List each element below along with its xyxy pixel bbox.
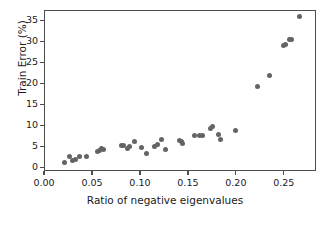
- x-tick-mark: [235, 171, 236, 175]
- x-tick-label: 0.25: [273, 178, 294, 188]
- data-point: [297, 14, 302, 19]
- x-tick-label: 0.10: [129, 178, 150, 188]
- data-point: [127, 144, 132, 149]
- x-tick-label: 0.00: [33, 178, 54, 188]
- data-point: [233, 128, 238, 133]
- data-point: [289, 37, 294, 42]
- x-tick-mark: [91, 171, 92, 175]
- data-point: [200, 133, 205, 138]
- x-tick-label: 0.20: [225, 178, 246, 188]
- data-point: [192, 133, 197, 138]
- x-tick-label: 0.15: [177, 178, 198, 188]
- data-point: [101, 147, 106, 152]
- y-tick-mark: [40, 146, 44, 147]
- scatter-plot-figure: 05101520253035 0.000.050.100.150.200.25 …: [0, 0, 330, 225]
- data-point: [77, 154, 82, 159]
- data-point: [210, 124, 215, 129]
- x-tick-label: 0.05: [81, 178, 102, 188]
- data-point: [283, 42, 288, 47]
- x-tick-mark: [283, 171, 284, 175]
- x-axis-label: Ratio of negative eigenvalues: [0, 194, 330, 206]
- y-tick-mark: [40, 125, 44, 126]
- data-point: [255, 84, 260, 89]
- plot-area: [44, 10, 316, 171]
- data-point: [84, 154, 89, 159]
- x-tick-mark: [187, 171, 188, 175]
- y-tick-mark: [40, 41, 44, 42]
- data-point: [159, 137, 164, 142]
- y-tick-mark: [40, 104, 44, 105]
- data-point: [144, 151, 149, 156]
- y-tick-label: 0: [32, 162, 38, 172]
- data-point: [139, 145, 144, 150]
- x-tick-mark: [139, 171, 140, 175]
- data-point: [62, 160, 67, 165]
- data-points-layer: [45, 11, 315, 170]
- data-point: [155, 142, 160, 147]
- y-tick-mark: [40, 167, 44, 168]
- y-tick-mark: [40, 20, 44, 21]
- y-tick-mark: [40, 62, 44, 63]
- data-point: [132, 139, 137, 144]
- data-point: [218, 137, 223, 142]
- x-tick-mark: [43, 171, 44, 175]
- y-tick-label: 5: [32, 141, 38, 151]
- y-axis-label: Train Error (%): [16, 0, 28, 128]
- y-tick-mark: [40, 83, 44, 84]
- data-point: [267, 73, 272, 78]
- data-point: [163, 147, 168, 152]
- data-point: [180, 141, 185, 146]
